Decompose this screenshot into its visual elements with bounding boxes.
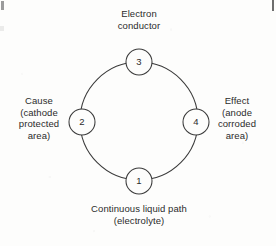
label-top-line-1: Electron bbox=[89, 8, 189, 20]
label-right-line-3: corroded bbox=[204, 118, 270, 130]
label-bottom-line-1: Continuous liquid path bbox=[59, 203, 219, 215]
scan-artifact-top-right bbox=[272, 0, 274, 11]
label-effect-anode: Effect (anode corroded area) bbox=[204, 95, 270, 141]
label-left-line-4: area) bbox=[6, 130, 72, 142]
label-left-line-1: Cause bbox=[6, 95, 72, 107]
scan-artifact-left-edge bbox=[0, 26, 4, 31]
label-right-line-2: (anode bbox=[204, 107, 270, 119]
node-label-3: 3 bbox=[126, 49, 152, 75]
diagram-canvas: 3 2 4 1 Electron conductor Cause (cathod… bbox=[0, 0, 276, 246]
node-label-1: 1 bbox=[126, 168, 152, 194]
label-left-line-3: protected bbox=[6, 118, 72, 130]
label-right-line-1: Effect bbox=[204, 95, 270, 107]
label-continuous-liquid-path: Continuous liquid path (electrolyte) bbox=[59, 203, 219, 226]
ring-circle bbox=[80, 62, 198, 180]
label-left-line-2: (cathode bbox=[6, 107, 72, 119]
label-bottom-line-2: (electrolyte) bbox=[59, 215, 219, 227]
label-cause-cathode: Cause (cathode protected area) bbox=[6, 95, 72, 141]
label-top-line-2: conductor bbox=[89, 20, 189, 32]
node-label-2: 2 bbox=[69, 109, 95, 135]
label-right-line-4: area) bbox=[204, 130, 270, 142]
scan-artifact-top-left bbox=[1, 1, 4, 10]
label-electron-conductor: Electron conductor bbox=[89, 8, 189, 31]
